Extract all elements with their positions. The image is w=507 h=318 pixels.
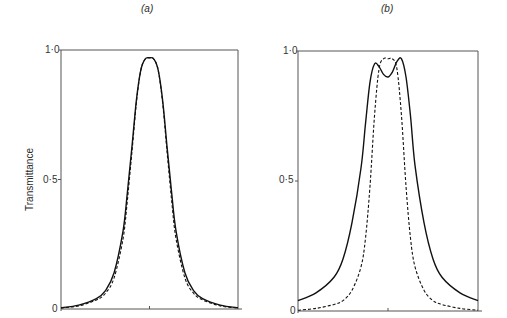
panel-b-dashed-curve	[298, 58, 478, 310]
panel-a-dashed-curve	[61, 58, 238, 308]
panel-b-solid-curve	[298, 58, 478, 301]
panel-a-solid-curve	[61, 58, 238, 308]
chart-canvas	[0, 0, 507, 318]
